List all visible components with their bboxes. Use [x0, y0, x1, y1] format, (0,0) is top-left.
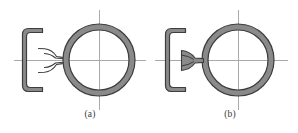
source-note — [104, 124, 224, 131]
ring-section-a — [58, 19, 140, 101]
panel-caption-b: (b) — [200, 109, 260, 120]
ring-section-b — [197, 19, 279, 101]
panel-b — [155, 10, 288, 110]
panel-a — [14, 10, 146, 110]
figure-container: (a) (b) — [0, 0, 298, 133]
panel-caption-a: (a) — [60, 109, 120, 120]
